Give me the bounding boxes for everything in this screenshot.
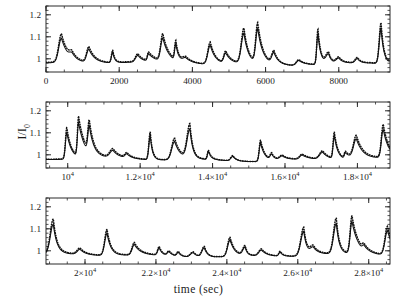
svg-text:1.2×104: 1.2×104 [126, 170, 156, 181]
svg-text:1.6×104: 1.6×104 [270, 170, 300, 181]
svg-text:2.6×104: 2.6×104 [283, 266, 313, 277]
svg-text:8000: 8000 [330, 76, 349, 86]
svg-text:1.2: 1.2 [30, 106, 42, 116]
panel-3-plot: 2×1042.2×1042.4×1042.6×1042.8×10411.11.2 [0, 192, 397, 287]
svg-text:2.2×104: 2.2×104 [141, 266, 171, 277]
svg-text:2×104: 2×104 [74, 266, 97, 277]
svg-text:1.8×104: 1.8×104 [343, 170, 373, 181]
svg-text:104: 104 [62, 170, 75, 181]
svg-text:1.1: 1.1 [30, 32, 42, 42]
x-axis-label: time (sec) [0, 283, 397, 295]
svg-text:4000: 4000 [183, 76, 202, 86]
panel-1-plot: 0200040006000800011.11.2 [0, 0, 397, 95]
light-curve-figure: I/I0 0200040006000800011.11.2 1041.2×104… [0, 0, 397, 303]
svg-text:2.4×104: 2.4×104 [212, 266, 242, 277]
svg-text:0: 0 [44, 76, 49, 86]
svg-text:2000: 2000 [110, 76, 129, 86]
svg-text:1.2: 1.2 [30, 10, 42, 20]
svg-text:1.4×104: 1.4×104 [198, 170, 228, 181]
panel-2-plot: 1041.2×1041.4×1041.6×1041.8×10411.11.2 [0, 96, 397, 191]
svg-text:2.8×104: 2.8×104 [354, 266, 384, 277]
svg-text:1: 1 [36, 246, 41, 256]
svg-text:1.1: 1.1 [30, 224, 42, 234]
svg-text:1.1: 1.1 [30, 128, 42, 138]
panel-3: 2×1042.2×1042.4×1042.6×1042.8×10411.11.2 [0, 192, 397, 287]
svg-text:1.2: 1.2 [30, 202, 42, 212]
svg-text:1: 1 [36, 54, 41, 64]
svg-text:1: 1 [36, 150, 41, 160]
svg-text:6000: 6000 [256, 76, 275, 86]
panel-1: 0200040006000800011.11.2 [0, 0, 397, 95]
panel-2: 1041.2×1041.4×1041.6×1041.8×10411.11.2 [0, 96, 397, 191]
